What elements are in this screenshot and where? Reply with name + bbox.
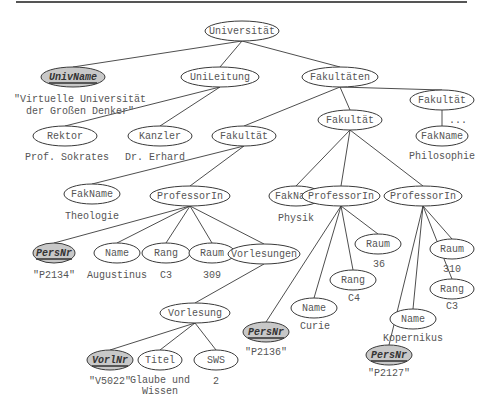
edge-unileitung-kanzler — [160, 87, 220, 126]
edge-universitaet-fakultaeten — [242, 41, 340, 67]
node-label: Vorlesung — [168, 308, 222, 319]
value-text: 309 — [203, 270, 221, 281]
node-fakultaeten: Fakultäten — [302, 67, 378, 87]
value-text: Augustinus — [87, 270, 147, 281]
edge-prof2-raum2 — [341, 206, 378, 234]
node-name2: Name — [291, 298, 337, 318]
node-label: Fakultät — [418, 95, 466, 106]
edge-fakultaet-l-prof1 — [190, 146, 244, 186]
tree-nodes: UniversitätUnivNameUniLeitungFakultätenF… — [33, 21, 474, 370]
edge-prof2-rang2 — [341, 206, 353, 270]
value-text: 36 — [373, 259, 385, 270]
edge-vorlesung-titel — [160, 323, 195, 350]
node-persnr2: PersNr — [243, 322, 289, 342]
node-label: UniLeitung — [190, 72, 250, 83]
node-raum3: Raum — [430, 239, 474, 259]
node-univname: UnivName — [41, 67, 105, 87]
node-vorlesung: Vorlesung — [160, 303, 230, 323]
value-text: Philosophie — [409, 151, 475, 162]
node-label: Fakultät — [326, 115, 374, 126]
node-prof1: ProfessorIn — [150, 186, 230, 206]
node-name1: Name — [94, 243, 140, 263]
node-fakname-l: FakName — [64, 184, 120, 204]
value-text: ... — [449, 115, 467, 126]
node-label: Rang — [341, 275, 365, 286]
node-vorlesungen: Vorlesungen — [228, 244, 300, 264]
node-label: Name — [302, 303, 326, 314]
node-prof3: ProfessorIn — [384, 186, 462, 206]
value-text: "V5022" — [89, 376, 131, 387]
node-fakultaet-m: Fakultät — [318, 110, 382, 130]
node-name3: Name — [390, 309, 436, 329]
node-label: FakName — [71, 189, 113, 200]
value-text: C4 — [348, 293, 360, 304]
edge-prof3-raum3 — [423, 206, 452, 239]
value-text: Dr. Erhard — [125, 152, 185, 163]
node-label: FakName — [421, 131, 463, 142]
node-universitaet: Universität — [205, 21, 279, 41]
edge-fakultaeten-fakultaet-m — [340, 87, 350, 110]
value-text: Wissen — [142, 386, 178, 397]
node-label: Name — [105, 248, 129, 259]
edge-universitaet-univname — [73, 41, 242, 67]
node-label: PersNr — [36, 248, 72, 259]
node-rang3: Rang — [430, 279, 474, 299]
node-unileitung: UniLeitung — [181, 67, 259, 87]
node-label: Raum — [440, 244, 464, 255]
node-rektor: Rektor — [33, 126, 97, 146]
node-fakultaet-l: Fakultät — [212, 126, 276, 146]
node-label: SWS — [207, 355, 225, 366]
value-text: "P2127" — [368, 368, 410, 379]
edge-vorlesung-sws — [195, 323, 216, 350]
edge-universitaet-unileitung — [220, 41, 242, 67]
node-label: UnivName — [49, 72, 97, 83]
value-text: Theologie — [65, 211, 119, 222]
value-text: der Großen Denker" — [26, 106, 134, 117]
node-label: Fakultät — [220, 131, 268, 142]
node-label: Rang — [154, 248, 178, 259]
value-text: Glaube und — [130, 375, 190, 386]
node-label: Kanzler — [139, 131, 181, 142]
node-prof2: ProfessorIn — [302, 186, 380, 206]
node-kanzler: Kanzler — [128, 126, 192, 146]
node-label: Raum — [366, 239, 390, 250]
xml-tree-diagram: UniversitätUnivNameUniLeitungFakultätenF… — [0, 0, 486, 414]
edge-prof1-name1 — [117, 206, 190, 243]
node-label: Name — [401, 314, 425, 325]
node-fakname-r: FakName — [416, 126, 468, 146]
value-text: "P2136" — [245, 347, 287, 358]
node-titel: Titel — [138, 350, 182, 370]
node-label: Fakultäten — [310, 72, 370, 83]
value-text: "Virtuelle Universität — [14, 94, 146, 105]
value-text: Curie — [300, 321, 330, 332]
value-text: C3 — [160, 270, 172, 281]
value-text: 2 — [213, 376, 219, 387]
node-label: Rektor — [47, 131, 83, 142]
node-vorlnr: VorlNr — [87, 350, 133, 370]
value-text: Kopernikus — [383, 333, 443, 344]
node-label: Titel — [145, 355, 175, 366]
node-label: PersNr — [248, 327, 284, 338]
node-label: ProfessorIn — [308, 191, 374, 202]
node-rang1: Rang — [142, 243, 190, 263]
value-text: Prof. Sokrates — [25, 152, 109, 163]
value-text: 310 — [443, 264, 461, 275]
node-rang2: Rang — [330, 270, 376, 290]
node-label: ProfessorIn — [390, 191, 456, 202]
node-label: Rang — [440, 284, 464, 295]
node-label: PersNr — [371, 350, 407, 361]
node-label: Universität — [209, 26, 275, 37]
node-fakultaet-r: Fakultät — [410, 90, 474, 110]
node-label: ProfessorIn — [157, 191, 223, 202]
edge-fakultaeten-fakultaet-r — [340, 87, 442, 90]
value-text: Physik — [278, 213, 314, 224]
node-label: Vorlesungen — [231, 249, 297, 260]
node-persnr1: PersNr — [33, 243, 75, 263]
node-persnr3: PersNr — [366, 345, 412, 365]
value-text: C3 — [446, 301, 458, 312]
node-sws: SWS — [194, 350, 238, 370]
value-text: "P2134" — [33, 270, 75, 281]
edge-vorlesung-vorlnr — [110, 323, 195, 350]
node-label: VorlNr — [92, 355, 128, 366]
node-label: Raum — [200, 248, 224, 259]
